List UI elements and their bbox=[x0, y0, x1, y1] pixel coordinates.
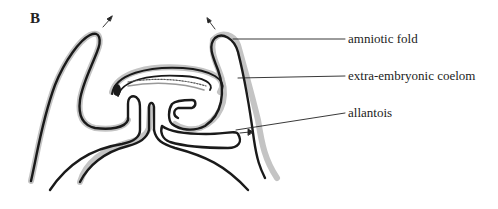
embryo-head bbox=[113, 84, 121, 96]
label-amniotic-fold: amniotic fold bbox=[348, 31, 418, 47]
diagram-drawing bbox=[0, 0, 498, 209]
stalk-right bbox=[154, 130, 248, 190]
embryo-diagram: B amniotic fold extra-embryonic coelom a… bbox=[0, 0, 498, 209]
embryo-body bbox=[128, 83, 204, 90]
body-outline-left bbox=[80, 103, 154, 182]
label-extra-embryonic-coelom: extra-embryonic coelom bbox=[348, 68, 475, 84]
panel-letter: B bbox=[30, 10, 40, 27]
label-allantois: allantois bbox=[348, 105, 392, 121]
leader-extra-embryonic-coelom bbox=[238, 76, 345, 78]
